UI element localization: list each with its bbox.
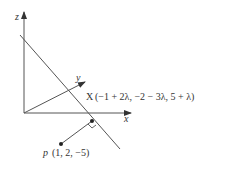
- y-axis-label: y: [75, 72, 81, 83]
- point-p: [59, 142, 63, 146]
- perpendicular-segment: [61, 121, 92, 144]
- diagram-canvas: z y x X (−1 + 2λ, −2 − 3λ, 5 + λ) p (1, …: [0, 0, 226, 169]
- point-p-name: p: [42, 147, 48, 158]
- right-angle-marker: [88, 124, 96, 128]
- y-axis: [24, 82, 85, 113]
- point-p-coords: (1, 2, −5): [52, 147, 89, 159]
- z-axis-label: z: [14, 11, 19, 22]
- point-x-coords: (−1 + 2λ, −2 − 3λ, 5 + λ): [95, 91, 194, 103]
- point-x-name: X: [86, 91, 94, 102]
- foot-point: [90, 119, 94, 123]
- x-axis-label: x: [123, 113, 129, 124]
